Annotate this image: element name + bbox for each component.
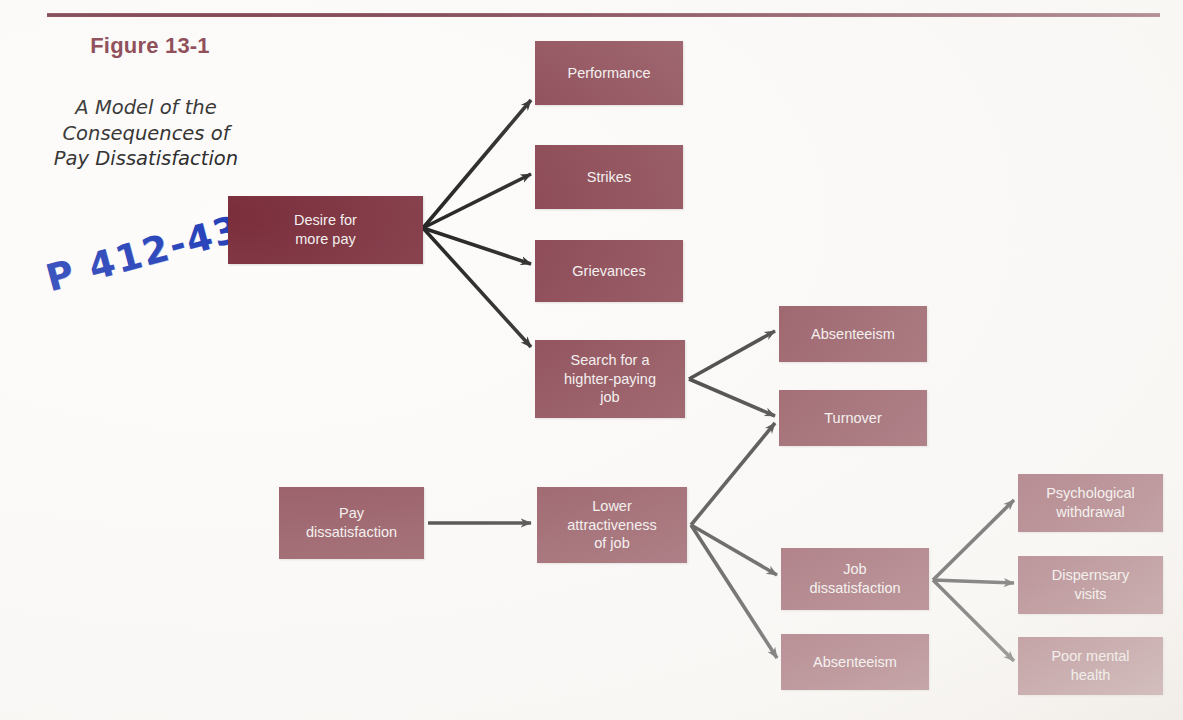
node-label-line-1: Job — [809, 560, 900, 579]
node-search-for-higher-paying-job[interactable]: Search for a highter-paying job — [535, 340, 685, 418]
edge-desire-to-performance — [423, 100, 531, 228]
edge-jobdissat-to-dispensary — [933, 580, 1014, 583]
node-label-line-1: Dispernsary — [1052, 566, 1129, 585]
node-performance[interactable]: Performance — [535, 41, 683, 105]
node-pay-dissatisfaction[interactable]: Pay dissatisfaction — [279, 487, 424, 559]
node-turnover[interactable]: Turnover — [779, 390, 927, 446]
node-job-dissatisfaction[interactable]: Job dissatisfaction — [781, 548, 929, 610]
edge-search-to-turnover — [689, 379, 775, 416]
edge-desire-to-strikes — [423, 174, 531, 228]
node-label-line-2: health — [1051, 666, 1129, 685]
node-label-line-1: Psychological — [1046, 484, 1135, 503]
figure-caption-line-1: A Model of the — [0, 95, 292, 121]
edge-lowerattr-to-turnover — [691, 423, 775, 525]
node-label-line-1: Lower — [567, 497, 656, 516]
node-label-line-3: job — [564, 388, 656, 407]
edge-lowerattr-to-absenteeism-bot — [691, 525, 777, 658]
figure-page: Figure 13-1 A Model of the Consequences … — [0, 0, 1183, 720]
node-label-line-2: withdrawal — [1046, 503, 1135, 522]
node-label-line-2: visits — [1052, 585, 1129, 604]
edge-desire-to-grievances — [423, 228, 531, 264]
node-dispensary-visits[interactable]: Dispernsary visits — [1018, 556, 1163, 614]
node-label-line-2: dissatisfaction — [809, 579, 900, 598]
node-grievances[interactable]: Grievances — [535, 240, 683, 302]
top-rule-divider — [47, 13, 1160, 17]
node-label-line-3: of job — [567, 534, 656, 553]
node-label-line-2: attractiveness — [567, 516, 656, 535]
node-label-line-1: Desire for — [294, 211, 357, 230]
node-label-line-1: Search for a — [564, 351, 656, 370]
node-label-line-1: Strikes — [587, 168, 631, 187]
node-strikes[interactable]: Strikes — [535, 145, 683, 209]
node-absenteeism-top[interactable]: Absenteeism — [779, 306, 927, 362]
figure-number-title: Figure 13-1 — [0, 33, 300, 59]
node-label-line-1: Performance — [567, 64, 650, 83]
edge-desire-to-search — [423, 228, 531, 347]
edge-search-to-absenteeism-top — [689, 331, 775, 379]
node-absenteeism-bottom[interactable]: Absenteeism — [781, 634, 929, 690]
node-label-line-1: Poor mental — [1051, 647, 1129, 666]
node-label-line-2: highter-paying — [564, 370, 656, 389]
node-label-line-1: Pay — [306, 504, 397, 523]
figure-caption-line-3: Pay Dissatisfaction — [0, 146, 292, 172]
node-label-line-1: Absenteeism — [813, 653, 897, 672]
node-label-line-2: more pay — [294, 230, 357, 249]
edge-jobdissat-to-psychological — [933, 500, 1014, 580]
node-label-line-2: dissatisfaction — [306, 523, 397, 542]
node-label-line-1: Absenteeism — [811, 325, 895, 344]
edge-jobdissat-to-poormental — [933, 580, 1014, 661]
node-label-line-1: Turnover — [824, 409, 881, 428]
node-lower-attractiveness-of-job[interactable]: Lower attractiveness of job — [537, 487, 687, 563]
node-poor-mental-health[interactable]: Poor mental health — [1018, 637, 1163, 695]
node-label-line-1: Grievances — [572, 262, 645, 281]
figure-caption: A Model of the Consequences of Pay Dissa… — [0, 95, 292, 172]
edge-lowerattr-to-jobdissat — [691, 525, 777, 575]
figure-caption-line-2: Consequences of — [0, 121, 292, 147]
node-desire-for-more-pay[interactable]: Desire for more pay — [228, 196, 423, 264]
node-psychological-withdrawal[interactable]: Psychological withdrawal — [1018, 474, 1163, 532]
